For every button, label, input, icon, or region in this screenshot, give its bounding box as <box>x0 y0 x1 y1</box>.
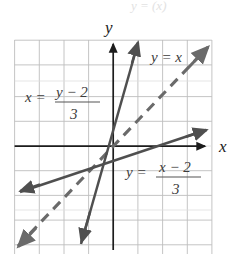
coordinate-plane-svg: y = (x) <box>0 0 239 254</box>
annotation-inverse-denominator: 3 <box>69 106 78 122</box>
annotation-identity: y = x <box>149 49 182 65</box>
annotation-identity-text: y = x <box>149 49 182 65</box>
annotation-function-lhs: y = <box>124 164 147 180</box>
annotation-inverse-numerator: y − 2 <box>54 84 88 100</box>
heading-fragment-text: y = (x) <box>129 0 166 13</box>
y-axis-label: y <box>103 18 113 37</box>
annotation-function-denominator: 3 <box>171 181 180 197</box>
annotation-function-numerator: x − 2 <box>158 159 191 175</box>
annotation-inverse-lhs: x = <box>24 89 46 105</box>
graph-figure: y = (x) <box>0 0 239 254</box>
x-axis-label: x <box>218 137 227 156</box>
cropped-heading-remnant: y = (x) <box>129 0 166 13</box>
